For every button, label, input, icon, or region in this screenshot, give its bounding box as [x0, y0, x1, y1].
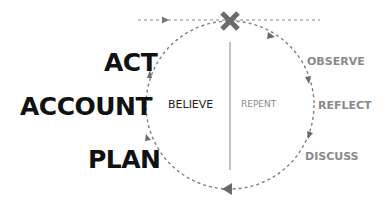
- label-discuss: DISCUSS: [305, 151, 359, 162]
- cross-x-icon: [222, 13, 238, 29]
- arrow-icon: [307, 131, 313, 139]
- label-repent: REPENT: [241, 100, 276, 109]
- label-act: ACT: [104, 50, 157, 75]
- label-believe: BELIEVE: [168, 99, 213, 110]
- label-plan: PLAN: [88, 147, 161, 172]
- label-observe: OBSERVE: [307, 56, 365, 67]
- arrow-icon: [145, 134, 151, 141]
- arrow-icon: [267, 32, 275, 39]
- arrow-right-icon: [162, 17, 169, 24]
- label-reflect: REFLECT: [318, 100, 372, 111]
- label-account: ACCOUNT: [20, 94, 152, 119]
- arrow-icon: [305, 76, 311, 84]
- arrow-left-icon: [222, 183, 232, 195]
